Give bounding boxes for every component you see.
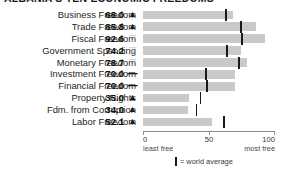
bar-track — [143, 58, 275, 67]
chart-row: Property Rights35.0▲ — [0, 92, 281, 104]
bar-fill — [143, 58, 247, 67]
row-value: 68.0 — [98, 9, 124, 21]
world-average-tick — [223, 116, 225, 128]
chart-row: Fdm. from Corruption34.0▲ — [0, 104, 281, 116]
trend-up-icon: ▲ — [127, 116, 138, 128]
axis-least-free-label: least free — [143, 144, 173, 153]
world-average-tick — [240, 21, 242, 33]
bar-track — [143, 22, 275, 31]
trend-up-icon: ▲ — [127, 92, 138, 104]
bar-track — [143, 106, 275, 115]
row-label: Business Freedom — [58, 9, 136, 21]
bar-fill — [143, 22, 256, 31]
bar-fill — [143, 11, 233, 20]
chart-row: Investment Freedom70.0— — [0, 68, 281, 80]
world-average-tick — [225, 9, 227, 21]
axis-tick-label: 100 — [262, 135, 275, 144]
row-value: 92.6 — [98, 33, 124, 45]
trend-up-icon: ▲ — [127, 104, 138, 116]
row-value: 85.8 — [98, 21, 124, 33]
chart-row: Labor Freedom52.1▲ — [0, 116, 281, 128]
bar-track — [143, 34, 275, 43]
bar-track — [143, 118, 275, 127]
chart-row: Business Freedom68.0▲ — [0, 9, 281, 21]
trend-flat-icon: — — [127, 80, 138, 92]
trend-down-icon: ▽ — [127, 33, 138, 45]
chart-row: Government Spending74.2▽ — [0, 45, 281, 57]
trend-up-icon: ▲ — [127, 21, 138, 33]
chart-title: ALBANIA'S TEN ECONOMIC FREEDOMS — [4, 0, 254, 4]
chart-row: Financial Freedom70.0— — [0, 80, 281, 92]
chart-plot-area: Business Freedom68.0▲Trade Freedom85.8▲F… — [0, 9, 281, 133]
row-label: Monetary Freedom — [57, 57, 136, 69]
trend-up-icon: ▲ — [127, 9, 138, 21]
bar-fill — [143, 34, 265, 43]
bar-fill — [143, 94, 189, 103]
bar-track — [143, 70, 275, 79]
chart-row: Monetary Freedom78.7▽ — [0, 57, 281, 69]
bar-fill — [143, 118, 212, 127]
row-value: 35.0 — [98, 92, 124, 104]
bar-fill — [143, 82, 235, 91]
world-average-tick — [226, 45, 228, 57]
axis-tick-label: 0 — [143, 135, 147, 144]
world-average-tick — [206, 80, 208, 92]
legend-label: = world average — [180, 157, 233, 166]
bar-track — [143, 94, 275, 103]
trend-flat-icon: — — [127, 68, 138, 80]
world-average-tick — [241, 33, 243, 45]
trend-down-icon: ▽ — [127, 57, 138, 69]
axis-tick-label: 50 — [205, 135, 213, 144]
row-value: 34.0 — [98, 104, 124, 116]
world-average-tick — [196, 104, 198, 116]
bar-track — [143, 11, 275, 20]
chart-legend: = world average — [175, 156, 233, 167]
world-average-tick — [238, 57, 240, 69]
world-average-marker-icon — [175, 157, 177, 166]
row-value: 74.2 — [98, 45, 124, 57]
chart-row: Trade Freedom85.8▲ — [0, 21, 281, 33]
bar-fill — [143, 70, 235, 79]
row-value: 78.7 — [98, 57, 124, 69]
row-value: 52.1 — [98, 116, 124, 128]
world-average-tick — [200, 92, 202, 104]
bar-fill — [143, 106, 188, 115]
world-average-tick — [205, 68, 207, 80]
chart-row: Fiscal Freedom92.6▽ — [0, 33, 281, 45]
trend-down-icon: ▽ — [127, 45, 138, 57]
row-value: 70.0 — [98, 80, 124, 92]
bar-track — [143, 82, 275, 91]
bar-track — [143, 46, 275, 55]
row-value: 70.0 — [98, 68, 124, 80]
axis-most-free-label: most free — [244, 144, 275, 153]
chart-x-axis: 050100least freemost free — [143, 131, 275, 137]
